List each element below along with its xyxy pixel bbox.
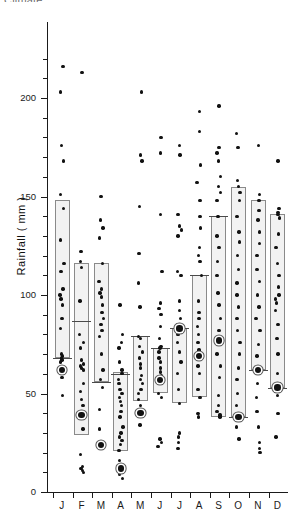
x-tick-4 [131,492,132,498]
data-point [60,376,63,379]
x-tick-label-7: A [189,500,209,511]
data-point [256,293,259,296]
data-point [277,232,280,235]
data-point [100,329,103,332]
data-point [198,199,201,202]
data-point [82,362,85,365]
data-point [195,181,198,184]
data-point [80,71,83,74]
data-point [176,270,179,273]
data-point [178,350,181,353]
y-tick-180 [43,137,47,138]
data-point [118,388,121,391]
data-point [79,250,82,253]
data-point [177,441,180,444]
data-point [139,366,142,369]
data-point [101,226,104,229]
mean-marker-J-5 [157,377,163,383]
data-point [217,329,220,332]
data-point [138,356,141,359]
data-point [158,437,161,440]
clipped-header-text: Climate [4,0,43,2]
data-point [196,412,199,415]
data-point [258,193,261,196]
data-point [60,144,63,147]
data-point [178,224,181,227]
data-point [159,313,162,316]
data-point [258,230,261,233]
y-tick-40 [43,413,47,414]
y-tick-10 [43,472,47,473]
data-point [277,207,280,210]
data-point [178,309,181,312]
data-point [217,303,220,306]
box-O-9 [231,187,246,417]
data-point [118,435,121,438]
data-point [257,305,260,308]
data-point [196,341,199,344]
data-point [235,293,238,296]
data-point [236,179,239,182]
data-point [235,215,238,218]
x-tick-9 [229,492,230,498]
data-point [275,301,278,304]
data-point [215,151,218,154]
data-point [238,191,241,194]
data-point [236,146,239,149]
data-point [179,360,182,363]
data-point [140,90,143,93]
x-tick-label-8: S [209,500,229,511]
data-point [200,274,203,277]
data-point [101,303,104,306]
data-point [139,362,142,365]
x-tick-6 [171,492,172,498]
data-point [119,431,122,434]
rainfall-chart: Climate Rainfall ( mm ) 501001502000 JFM… [0,0,292,517]
data-point [139,404,142,407]
data-point [81,404,84,407]
data-point [217,159,220,162]
data-point [59,238,62,241]
data-point [98,236,101,239]
data-point [141,350,144,353]
data-point [157,350,160,353]
data-point [139,388,142,391]
data-point [80,358,83,361]
y-tick-label-50: 50 [6,388,36,399]
data-point [258,329,261,332]
data-point [61,303,64,306]
y-tick-70 [43,354,47,355]
data-point [59,360,62,363]
data-point [235,281,238,284]
x-tick-5 [151,492,152,498]
data-point [196,364,199,367]
data-point [255,410,258,413]
median-line-F-1 [72,321,91,322]
data-point [179,317,182,320]
data-point [219,364,222,367]
data-point [237,230,240,233]
x-tick-label-1: F [72,500,92,511]
y-tick-160 [43,177,47,178]
data-point [138,345,141,348]
data-point [159,301,162,304]
data-point [199,163,202,166]
data-point [82,368,85,371]
data-point [257,343,260,346]
data-point [59,297,62,300]
data-point [100,287,103,290]
data-point [198,246,201,249]
data-point [258,441,261,444]
data-point [138,305,141,308]
mean-marker-J-0 [59,367,65,373]
data-point [257,209,260,212]
y-tick-90 [43,315,47,316]
data-point [117,449,120,452]
data-point [159,136,162,139]
y-tick-190 [43,118,47,119]
data-point [158,346,161,349]
data-point [160,270,163,273]
x-tick-label-10: N [248,500,268,511]
data-point [121,425,124,428]
x-tick-label-0: J [52,500,72,511]
